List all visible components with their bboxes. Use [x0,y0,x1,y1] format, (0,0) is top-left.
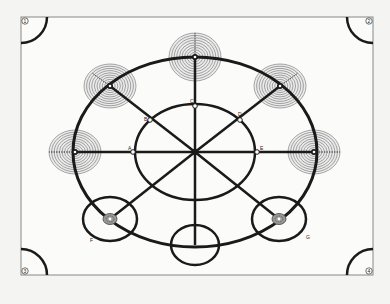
node-D [238,118,243,123]
plan-diagram: ABCDEFG 1234 [0,0,390,304]
node-C [193,104,198,109]
node-B [148,118,153,123]
node-A [131,150,136,155]
point-label-F: F [90,237,93,243]
corner-number: 4 [368,268,371,274]
node-E [255,150,260,155]
point-label-D: D [238,111,242,117]
corner-number: 3 [24,268,27,274]
corner-number: 2 [368,18,371,24]
center-node [192,149,198,155]
point-label-G: G [306,234,310,240]
corner-number: 1 [24,18,27,24]
point-label-C: C [190,98,194,104]
